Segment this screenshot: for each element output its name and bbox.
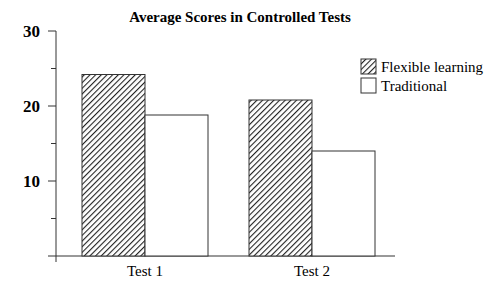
bar-flexible-learning	[249, 100, 312, 256]
bar-flexible-learning	[82, 75, 145, 257]
y-tick-label: 20	[23, 97, 40, 116]
legend-label: Traditional	[381, 78, 447, 94]
bar-traditional	[145, 115, 208, 256]
legend-swatch	[361, 59, 376, 74]
legend-swatch	[361, 78, 376, 93]
bar-traditional	[312, 151, 375, 256]
bar-chart: Average Scores in Controlled Tests 10203…	[0, 0, 498, 297]
y-tick-label: 10	[23, 172, 40, 191]
x-tick-label: Test 1	[127, 263, 163, 279]
legend-label: Flexible learning	[381, 59, 484, 75]
legend: Flexible learningTraditional	[361, 59, 484, 94]
y-tick-label: 30	[23, 22, 40, 41]
bars: Test 1Test 2	[82, 75, 375, 280]
chart-title: Average Scores in Controlled Tests	[129, 9, 351, 25]
x-tick-label: Test 2	[294, 263, 330, 279]
